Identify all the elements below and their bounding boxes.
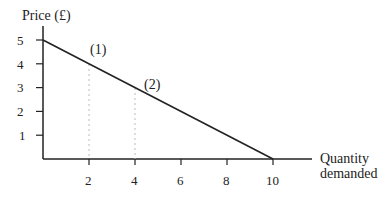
y-axis-label: Price (£)	[22, 9, 71, 23]
y-tick-label: 4	[17, 58, 24, 71]
y-ticks	[36, 40, 43, 135]
y-tick-label: 3	[17, 81, 24, 94]
x-tick-label: 10	[266, 174, 279, 187]
x-tick-label: 6	[177, 174, 184, 187]
x-axis-label-line1: Quantity	[320, 152, 369, 166]
y-tick-label: 5	[17, 34, 24, 47]
point-2-label: (2)	[144, 78, 160, 92]
demand-line	[43, 40, 273, 159]
x-ticks	[89, 159, 273, 165]
point-1-label: (1)	[90, 43, 106, 57]
y-tick-label: 2	[17, 105, 24, 118]
y-tick-label: 1	[19, 129, 26, 142]
x-tick-label: 8	[223, 174, 230, 187]
x-axis-label-line2: demanded	[320, 167, 378, 181]
x-tick-label: 2	[85, 174, 92, 187]
x-tick-label: 4	[131, 174, 138, 187]
